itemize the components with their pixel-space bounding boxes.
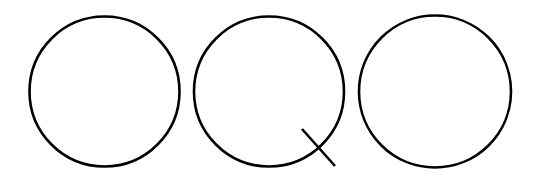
circle-shape-right [359, 16, 511, 168]
q-shape-middle [194, 17, 344, 167]
circle-shape-left [30, 17, 180, 167]
circle-shape-middle [194, 17, 344, 167]
figure-canvas [0, 0, 540, 186]
shapes-drawing [0, 0, 540, 186]
